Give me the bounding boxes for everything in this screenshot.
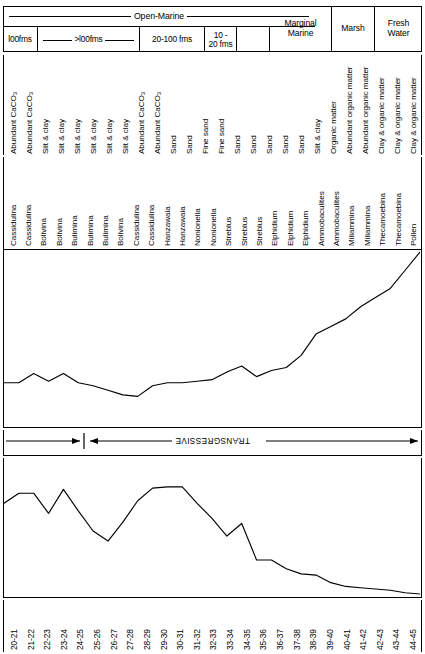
axis-label-24: 44-45	[408, 629, 418, 650]
axis-label-12: 32-33	[208, 629, 218, 650]
axis-label-21: 41-42	[358, 629, 368, 650]
lithology-label-14: Sand	[233, 135, 242, 154]
lithology-label-15: Sand	[249, 135, 258, 154]
lithology-label-12: Fine sand	[201, 119, 210, 154]
axis-label-2: 22-23	[42, 629, 52, 650]
fauna-band: CassidulinaCassidulinaBolivinaBolivinaBu…	[3, 157, 422, 250]
fauna-label-5: Bulimina	[86, 215, 95, 246]
transgressive-label: TRANSGRESSIVE	[4, 436, 421, 445]
axis-label-8: 28-29	[142, 629, 152, 650]
fauna-label-14: Streblus	[224, 217, 233, 246]
depth-cell-label: l00fms	[6, 35, 33, 44]
axis-label-1: 21-22	[26, 629, 36, 650]
fauna-label-4: Bulimina	[70, 215, 79, 246]
axis-label-10: 30-31	[175, 629, 185, 650]
lithology-label-6: Silt & clay	[105, 119, 114, 154]
upper-curve-svg	[4, 250, 420, 426]
lithology-label-0: Abundant CaCO3	[9, 92, 18, 154]
lithology-label-21: Abundant organic matter	[345, 67, 354, 155]
fauna-label-21: Ammobaculites	[332, 191, 341, 246]
fauna-label-0: Cassidulina	[9, 205, 18, 246]
lithology-label-20: Organic matter	[329, 101, 338, 154]
lithology-label-18: Sand	[297, 135, 306, 154]
fauna-label-18: Elphidium	[286, 211, 295, 246]
fauna-label-2: Bolivina	[39, 218, 48, 246]
upper-curve-path	[4, 252, 420, 396]
fauna-label-9: Cassidulina	[147, 205, 156, 246]
lithology-label-7: Silt & clay	[121, 119, 130, 154]
fauna-label-20: Ammobaculites	[317, 191, 326, 246]
lower-curve-svg	[4, 458, 420, 596]
lithology-label-8: Abundant CaCO3	[137, 92, 146, 154]
axis-label-23: 43-44	[391, 629, 401, 650]
fauna-label-7: Bolivina	[116, 218, 125, 246]
fauna-label-17: Elphidium	[270, 211, 279, 246]
axis-label-7: 27-28	[125, 629, 135, 650]
fauna-label-23: Miliammina	[363, 206, 372, 246]
axis-label-11: 31-32	[192, 629, 202, 650]
fauna-label-3: Bolivina	[55, 218, 64, 246]
sample-interval-axis: 20-2121-2222-2323-2424-2525-2626-2727-28…	[3, 600, 422, 652]
fauna-label-19: Elphidium	[301, 211, 310, 246]
axis-label-4: 24-25	[75, 629, 85, 650]
axis-label-0: 20-21	[9, 629, 19, 650]
environment-cell-0: MarginalMarine	[270, 6, 332, 52]
upper-curve-panel	[3, 250, 422, 428]
transgressive-band: TRANSGRESSIVE	[3, 430, 422, 456]
fauna-label-11: Hanzawaia	[178, 206, 187, 246]
open-marine-label: Open-Marine	[131, 11, 187, 21]
lithology-label-23: Clay & organic matter	[377, 77, 386, 154]
lithology-label-17: Sand	[281, 135, 290, 154]
lithology-label-16: Sand	[265, 135, 274, 154]
lithology-label-5: Silt & clay	[89, 119, 98, 154]
axis-label-9: 29-30	[159, 629, 169, 650]
lithology-label-4: Silt & clay	[73, 119, 82, 154]
axis-label-17: 37-38	[292, 629, 302, 650]
fauna-label-6: Bulimina	[101, 215, 110, 246]
fauna-label-10: Hanzawaia	[163, 206, 172, 246]
fauna-label-24: Thecamoebina	[378, 193, 387, 246]
environment-cell-2: FreshWater	[375, 6, 422, 52]
lower-curve-panel	[3, 458, 422, 598]
lithology-label-2: Silt & clay	[41, 119, 50, 154]
environment-cell-label: FreshWater	[387, 19, 409, 38]
fauna-label-26: Pollen	[409, 224, 418, 246]
axis-label-22: 42-43	[375, 629, 385, 650]
axis-label-13: 33-34	[225, 629, 235, 650]
transgressive-text: TRANSGRESSIVE	[172, 436, 253, 445]
fauna-label-8: Cassidulina	[132, 205, 141, 246]
lithology-label-13: Fine sand	[217, 119, 226, 154]
lithology-label-10: Sand	[169, 135, 178, 154]
fauna-label-13: Nonionella	[209, 208, 218, 246]
fauna-label-16: Streblus	[255, 217, 264, 246]
depth-cell-3: 10 -20 fms	[205, 27, 237, 52]
fauna-label-12: Nonionella	[193, 208, 202, 246]
fauna-label-25: Thecamoebina	[394, 193, 403, 246]
axis-label-19: 39-40	[325, 629, 335, 650]
lithology-label-24: Clay & organic matter	[393, 77, 402, 154]
environment-cell-1: Marsh	[332, 6, 375, 52]
axis-label-5: 25-26	[92, 629, 102, 650]
fauna-label-1: Cassidulina	[24, 205, 33, 246]
lithology-label-11: Sand	[185, 135, 194, 154]
lower-curve-path	[4, 487, 420, 594]
lithology-label-22: Abundant organic matter	[361, 67, 370, 155]
axis-label-3: 23-24	[59, 629, 69, 650]
axis-label-14: 34-35	[242, 629, 252, 650]
lithology-label-25: Clay & organic matter	[409, 77, 418, 154]
depth-cell-label: 20-100 fms	[150, 35, 194, 44]
lithology-label-3: Silt & clay	[57, 119, 66, 154]
axis-label-20: 40-41	[342, 629, 352, 650]
lithology-label-19: Silt & clay	[313, 119, 322, 154]
environment-cell-label: Marsh	[341, 24, 364, 34]
lithology-label-9: Abundant CaCO3	[153, 92, 162, 154]
axis-label-18: 38-39	[308, 629, 318, 650]
fauna-label-22: Miliammina	[347, 206, 356, 246]
environment-cell-label: MarginalMarine	[284, 19, 316, 38]
axis-label-16: 36-37	[275, 629, 285, 650]
stratigraphic-chart-sheet: Open-Marine l00fms>l00fms20-100 fms10 -2…	[0, 0, 425, 654]
depth-cell-label: 10 -20 fms	[207, 31, 235, 49]
lithology-band: Abundant CaCO3Abundant CaCO3Silt & clayS…	[3, 55, 422, 155]
axis-label-15: 35-36	[258, 629, 268, 650]
lithology-label-1: Abundant CaCO3	[25, 92, 34, 154]
